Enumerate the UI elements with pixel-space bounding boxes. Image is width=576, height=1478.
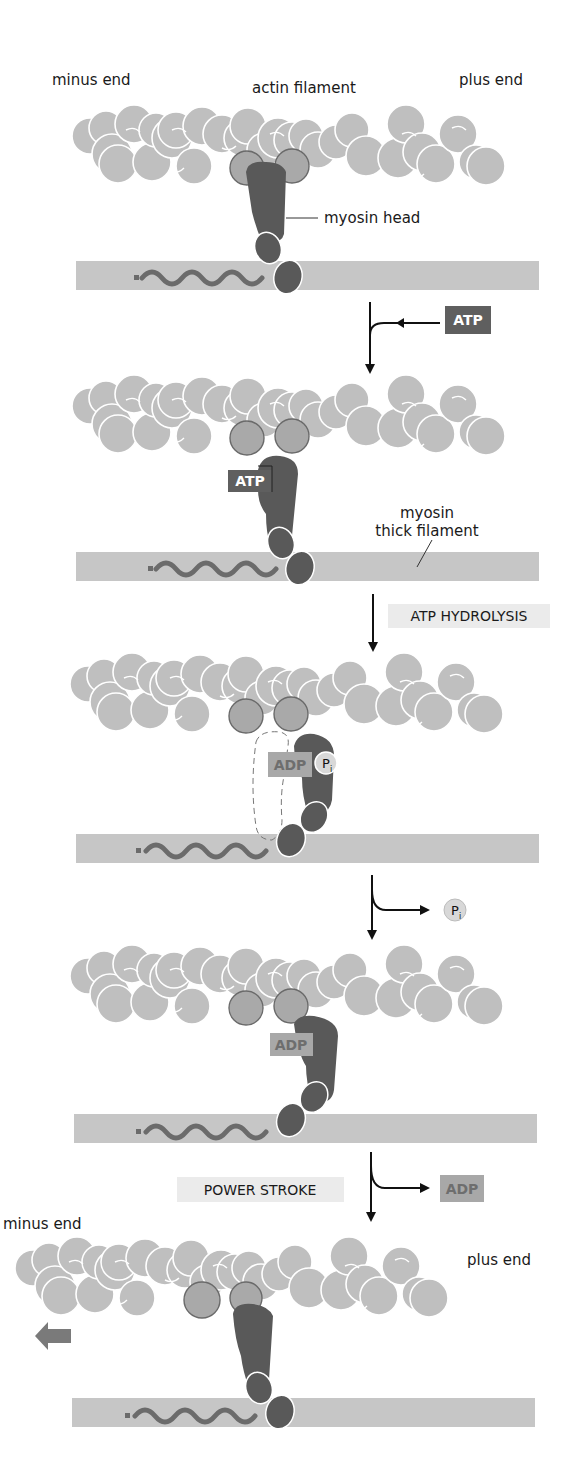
adp-bound-label: ADP [275, 1037, 308, 1053]
phosphate-bound-label: P [322, 756, 330, 771]
phosphate-output-label: P [451, 903, 459, 918]
plus-end-label: plus end [467, 1251, 531, 1269]
adp-bound-label: ADP [274, 757, 307, 773]
myosin-head-label: myosin head [324, 209, 420, 227]
panel-5-post-power-stroke: minus end plus end [3, 1215, 535, 1432]
thick-filament-label-line1: myosin [400, 504, 454, 522]
transition-phosphate-release: P i [367, 875, 466, 940]
panel-4-adp-bound-strong: ADP [70, 945, 537, 1143]
minus-end-label: minus end [3, 1215, 82, 1233]
power-stroke-step-label: POWER STROKE [204, 1182, 317, 1198]
panel-2-atp-bound: ATP myosin thick filament [72, 375, 539, 588]
atp-input-label: ATP [453, 312, 483, 328]
atp-bound-label: ATP [235, 473, 265, 489]
actin-filament-label: actin filament [252, 79, 356, 97]
atp-hydrolysis-step-label: ATP HYDROLYSIS [411, 608, 528, 624]
cross-bridge-cycle-diagram: minus end actin filament plus end myosin… [0, 0, 576, 1478]
adp-output-label: ADP [446, 1181, 479, 1197]
transition-atp-hydrolysis: ATP HYDROLYSIS [368, 594, 550, 652]
transition-atp-binding: ATP [365, 302, 491, 374]
panel-1-rigor-state: minus end actin filament plus end myosin… [52, 71, 539, 297]
phosphate-bound-badge: P i [315, 752, 337, 774]
phosphate-output-subscript: i [459, 912, 461, 921]
previous-position-outline [253, 732, 288, 840]
minus-end-label: minus end [52, 71, 131, 89]
transition-power-stroke: POWER STROKE ADP [177, 1152, 484, 1222]
phosphate-bound-subscript: i [330, 765, 332, 774]
movement-direction-arrow [35, 1322, 71, 1350]
thick-filament-label-line2: thick filament [375, 522, 478, 540]
panel-3-adp-pi-cocked: ADP P i [70, 653, 539, 863]
plus-end-label: plus end [459, 71, 523, 89]
